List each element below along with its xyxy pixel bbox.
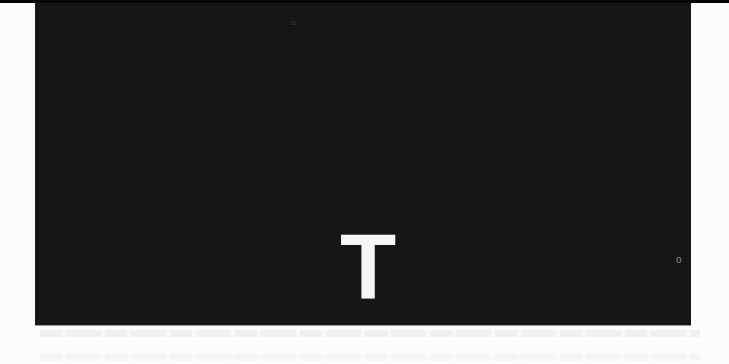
page: o o T bbox=[0, 0, 729, 364]
dark-image-panel: o o T bbox=[35, 3, 691, 325]
speck-mark: o bbox=[291, 18, 295, 28]
faded-text-line bbox=[40, 354, 700, 361]
faded-text-line bbox=[40, 330, 700, 337]
letter-glyph: T bbox=[333, 232, 403, 302]
speck-mark: o bbox=[676, 255, 682, 265]
